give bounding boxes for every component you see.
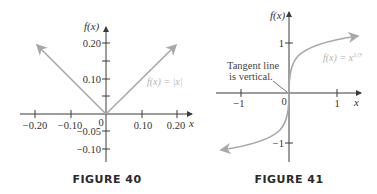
figures-canvas: f(x) x −0.20 −0.10 0 0.10 0.20 0.20 0.10… <box>0 0 377 194</box>
x-tick-label: −0.20 <box>23 120 47 131</box>
cube-root-curve <box>289 36 358 93</box>
x-axis-label: x <box>353 96 359 108</box>
y-tick-label: −1 <box>273 138 284 149</box>
y-axis-label: f(x) <box>270 9 286 22</box>
function-label: f(x) = |x| <box>147 76 183 88</box>
x-tick-label: −1 <box>233 98 244 109</box>
function-label: f(x) = x1/3 <box>323 51 363 64</box>
annotation-line-1: Tangent line <box>227 60 279 71</box>
annotation-line-2: is vertical. <box>229 71 273 82</box>
figure-40: f(x) x −0.20 −0.10 0 0.10 0.20 0.20 0.10… <box>20 20 194 186</box>
figure-caption: FIGURE 41 <box>254 173 323 186</box>
figure-41: f(x) x −1 0 1 1 −1 Tangent line is verti… <box>216 9 363 186</box>
figure-caption: FIGURE 40 <box>72 173 141 186</box>
x-tick-label: 0.10 <box>134 120 152 131</box>
y-tick-label: 0.20 <box>83 38 101 49</box>
y-tick-label: −0.05 <box>77 126 101 137</box>
y-tick-label: −0.10 <box>77 144 101 155</box>
y-tick-label: 1 <box>279 38 284 49</box>
x-tick-label: 0 <box>281 96 286 107</box>
y-axis-label: f(x) <box>84 20 100 33</box>
y-tick-label: 0.10 <box>83 74 101 85</box>
x-axis-label: x <box>188 117 194 129</box>
annotation-leader-line <box>273 81 287 92</box>
x-tick-label: 0.20 <box>167 120 185 131</box>
x-tick-label: 1 <box>334 98 339 109</box>
